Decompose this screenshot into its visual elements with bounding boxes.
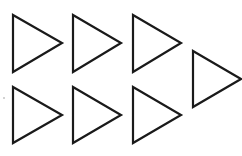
triangle-figure xyxy=(0,0,242,156)
speck-dot-0 xyxy=(3,97,5,99)
figure-background xyxy=(0,0,242,156)
speck-group xyxy=(3,97,5,99)
